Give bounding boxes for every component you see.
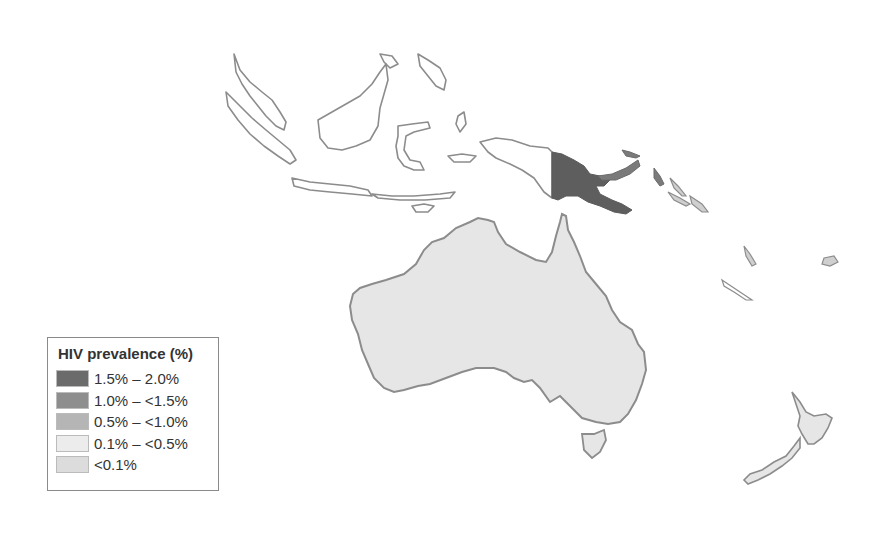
new-ireland <box>622 150 640 158</box>
new-zealand-north-island <box>792 392 832 444</box>
solomon-islands-2 <box>668 192 690 206</box>
map-legend: HIV prevalence (%) 1.5% – 2.0% 1.0% – <1… <box>47 337 219 491</box>
vanuatu <box>744 246 756 266</box>
new-zealand-south-island <box>744 438 800 484</box>
legend-swatch <box>56 456 89 473</box>
sumatra <box>226 92 296 164</box>
legend-label: 0.5% – <1.0% <box>94 413 188 430</box>
legend-swatch <box>56 392 89 409</box>
solomon-islands <box>670 178 686 196</box>
legend-item: <0.1% <box>56 454 210 476</box>
sulawesi <box>396 122 430 170</box>
legend-label: 0.1% – <0.5% <box>94 435 188 452</box>
legend-item: 0.5% – <1.0% <box>56 411 210 433</box>
malay-peninsula <box>234 54 286 130</box>
legend-title: HIV prevalence (%) <box>58 345 210 362</box>
legend-item: 1.5% – 2.0% <box>56 368 210 390</box>
legend-swatch <box>56 370 89 387</box>
papua-new-guinea <box>552 152 632 214</box>
halmahera <box>456 112 466 132</box>
legend-item: 0.1% – <0.5% <box>56 433 210 455</box>
lesser-sunda <box>372 192 455 200</box>
legend-swatch <box>56 413 89 430</box>
philippines-2 <box>380 54 398 68</box>
solomon-islands-3 <box>690 196 708 212</box>
australia <box>350 214 646 424</box>
legend-swatch <box>56 435 89 452</box>
new-caledonia <box>722 280 752 300</box>
borneo <box>318 64 388 150</box>
tasmania <box>582 430 606 458</box>
west-papua <box>480 138 552 198</box>
timor <box>412 204 434 212</box>
seram <box>448 154 476 162</box>
legend-label: 1.5% – 2.0% <box>94 370 179 387</box>
legend-label: <0.1% <box>94 456 137 473</box>
java <box>292 178 372 196</box>
legend-item: 1.0% – <1.5% <box>56 390 210 412</box>
philippines <box>418 54 446 90</box>
legend-label: 1.0% – <1.5% <box>94 392 188 409</box>
fiji <box>822 256 838 266</box>
bougainville <box>654 168 664 186</box>
new-britain <box>598 160 640 180</box>
